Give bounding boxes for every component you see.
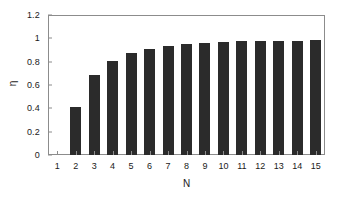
bar-series bbox=[48, 15, 325, 155]
y-tick-label: 0 bbox=[35, 150, 40, 160]
x-tick-label: 11 bbox=[237, 161, 246, 171]
x-axis: 123456789101112131415 bbox=[48, 155, 325, 177]
bar bbox=[126, 53, 137, 155]
x-tick-mark bbox=[297, 151, 298, 155]
y-tick-label: 0.4 bbox=[27, 103, 40, 113]
x-tick-mark bbox=[150, 151, 151, 155]
bar bbox=[218, 42, 229, 155]
x-tick-label: 10 bbox=[218, 161, 228, 171]
bar bbox=[273, 41, 284, 155]
bar bbox=[199, 43, 210, 155]
x-tick-label: 4 bbox=[110, 161, 115, 171]
bar bbox=[163, 46, 174, 155]
bar bbox=[89, 75, 100, 155]
bar bbox=[236, 41, 247, 155]
x-tick-mark bbox=[94, 151, 95, 155]
x-tick-mark bbox=[242, 151, 243, 155]
bar bbox=[292, 41, 303, 155]
y-tick-mark bbox=[48, 131, 52, 132]
x-tick-mark bbox=[223, 151, 224, 155]
x-tick-label: 13 bbox=[274, 161, 284, 171]
x-tick-mark bbox=[76, 151, 77, 155]
bar bbox=[255, 41, 266, 155]
y-tick-mark bbox=[48, 108, 52, 109]
y-tick-mark bbox=[48, 38, 52, 39]
chart-figure: 00.20.40.60.811.2 η 12345678910111213141… bbox=[0, 0, 338, 205]
x-tick-label: 9 bbox=[202, 161, 207, 171]
x-tick-mark bbox=[113, 151, 114, 155]
x-tick-label: 5 bbox=[129, 161, 134, 171]
x-tick-mark bbox=[316, 151, 317, 155]
x-tick-label: 15 bbox=[311, 161, 321, 171]
bar bbox=[107, 61, 118, 156]
y-tick-mark bbox=[48, 15, 52, 16]
x-tick-label: 7 bbox=[166, 161, 171, 171]
x-tick-mark bbox=[279, 151, 280, 155]
bar bbox=[144, 49, 155, 155]
x-tick-mark bbox=[57, 151, 58, 155]
x-tick-mark bbox=[168, 151, 169, 155]
x-axis-label: N bbox=[48, 178, 325, 189]
y-tick-label: 0.8 bbox=[27, 57, 40, 67]
bar bbox=[310, 40, 321, 155]
x-tick-label: 12 bbox=[255, 161, 265, 171]
bar bbox=[70, 107, 81, 155]
y-tick-label: 1 bbox=[35, 33, 40, 43]
y-tick-label: 0.2 bbox=[27, 127, 40, 137]
x-tick-label: 6 bbox=[147, 161, 152, 171]
x-tick-label: 14 bbox=[292, 161, 302, 171]
x-tick-label: 1 bbox=[55, 161, 60, 171]
y-tick-label: 0.6 bbox=[27, 80, 40, 90]
x-tick-label: 2 bbox=[73, 161, 78, 171]
x-tick-label: 3 bbox=[92, 161, 97, 171]
x-tick-mark bbox=[260, 151, 261, 155]
y-tick-mark bbox=[48, 85, 52, 86]
x-tick-label: 8 bbox=[184, 161, 189, 171]
y-axis-label: η bbox=[7, 81, 18, 87]
x-tick-mark bbox=[131, 151, 132, 155]
bar bbox=[181, 44, 192, 155]
y-tick-mark bbox=[48, 61, 52, 62]
x-tick-mark bbox=[205, 151, 206, 155]
x-tick-mark bbox=[187, 151, 188, 155]
y-tick-label: 1.2 bbox=[27, 10, 40, 20]
